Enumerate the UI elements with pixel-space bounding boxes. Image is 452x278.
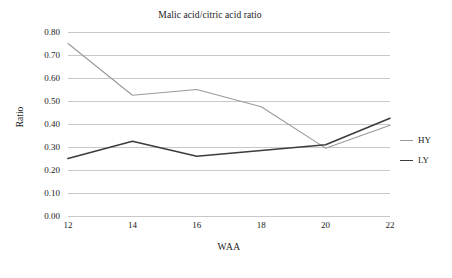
series-line-hy <box>68 44 390 149</box>
plot-area <box>68 32 390 216</box>
x-axis-title: WAA <box>68 242 390 252</box>
y-tick-label: 0.70 <box>44 50 60 60</box>
x-tick-label: 20 <box>321 220 330 230</box>
series-lines <box>68 32 390 216</box>
y-tick-label: 0.10 <box>44 188 60 198</box>
legend-swatch-hy-icon <box>400 140 413 141</box>
y-tick-label: 0.50 <box>44 96 60 106</box>
legend-item-hy[interactable]: HY <box>400 130 452 150</box>
gridline <box>68 216 390 217</box>
x-tick-label: 12 <box>64 220 73 230</box>
legend-item-ly[interactable]: LY <box>400 150 452 170</box>
chart-title: Malic acid/citric acid ratio <box>0 10 420 20</box>
x-tick-label: 18 <box>257 220 266 230</box>
line-chart: Malic acid/citric acid ratio Ratio 0.800… <box>0 0 452 278</box>
y-axis-tick-labels: 0.800.700.600.500.400.300.200.100.00 <box>22 32 64 216</box>
y-tick-label: 0.80 <box>44 27 60 37</box>
chart-legend: HYLY <box>400 130 452 170</box>
legend-label: LY <box>418 155 429 165</box>
y-tick-label: 0.60 <box>44 73 60 83</box>
y-tick-label: 0.40 <box>44 119 60 129</box>
x-axis-tick-labels: 121416182022 <box>68 220 390 236</box>
series-line-ly <box>68 118 390 158</box>
x-tick-label: 14 <box>128 220 137 230</box>
y-tick-label: 0.00 <box>44 211 60 221</box>
x-tick-label: 16 <box>192 220 201 230</box>
legend-label: HY <box>418 135 431 145</box>
x-tick-label: 22 <box>386 220 395 230</box>
y-tick-label: 0.20 <box>44 165 60 175</box>
y-tick-label: 0.30 <box>44 142 60 152</box>
legend-swatch-ly-icon <box>400 160 413 161</box>
